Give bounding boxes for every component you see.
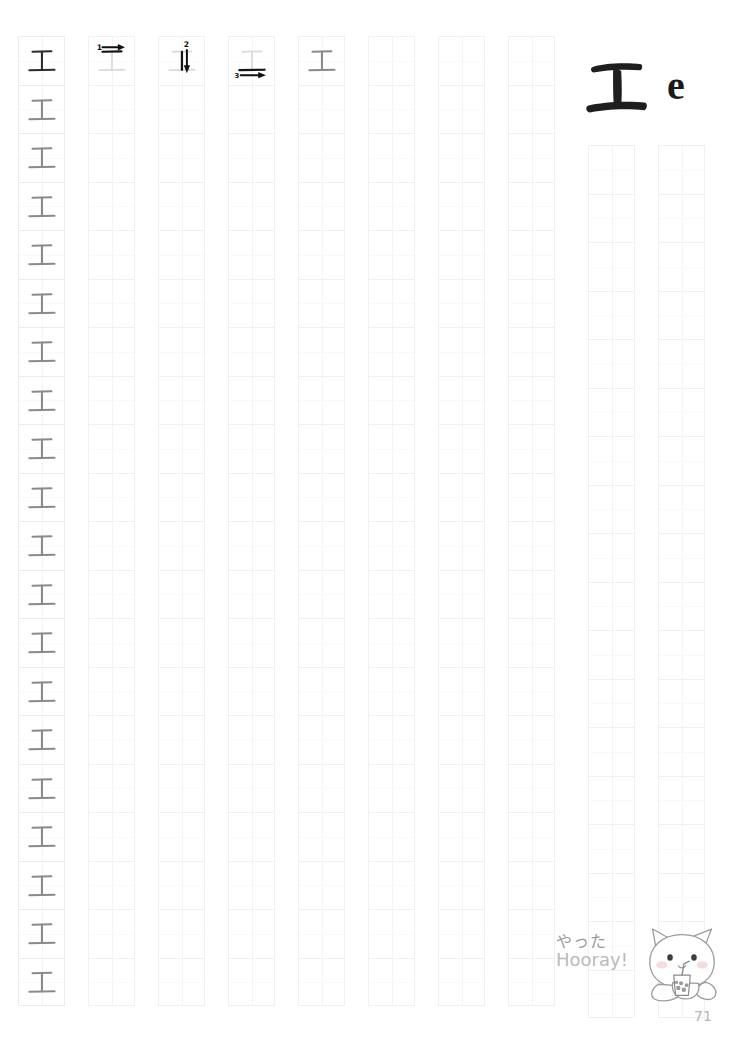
practice-cell[interactable]	[438, 36, 485, 85]
practice-cell[interactable]	[438, 133, 485, 182]
practice-column-4[interactable]: 3	[228, 36, 275, 1006]
practice-cell[interactable]	[18, 376, 65, 425]
practice-cell[interactable]	[368, 958, 415, 1007]
practice-cell[interactable]	[298, 570, 345, 619]
practice-cell[interactable]	[298, 473, 345, 522]
practice-cell[interactable]	[158, 618, 205, 667]
practice-column-1[interactable]	[18, 36, 65, 1006]
practice-cell[interactable]	[88, 133, 135, 182]
practice-cell[interactable]	[658, 339, 705, 388]
practice-cell[interactable]	[228, 715, 275, 764]
practice-cell[interactable]	[298, 327, 345, 376]
practice-cell[interactable]	[228, 958, 275, 1007]
practice-cell[interactable]	[228, 279, 275, 328]
practice-cell[interactable]	[228, 85, 275, 134]
practice-cell[interactable]	[368, 812, 415, 861]
practice-cell[interactable]	[88, 764, 135, 813]
practice-cell[interactable]	[438, 327, 485, 376]
practice-cell[interactable]	[588, 145, 635, 194]
practice-column-10[interactable]	[658, 145, 705, 1018]
practice-cell[interactable]	[18, 230, 65, 279]
practice-cell[interactable]	[508, 667, 555, 716]
practice-cell[interactable]	[508, 327, 555, 376]
practice-cell[interactable]	[658, 388, 705, 437]
practice-cell[interactable]	[228, 667, 275, 716]
practice-cell[interactable]	[658, 824, 705, 873]
practice-cell[interactable]	[158, 473, 205, 522]
practice-cell[interactable]: 3	[228, 36, 275, 85]
practice-cell[interactable]	[658, 194, 705, 243]
practice-cell[interactable]	[658, 436, 705, 485]
practice-cell[interactable]	[438, 618, 485, 667]
practice-cell[interactable]	[228, 376, 275, 425]
practice-cell[interactable]	[368, 521, 415, 570]
practice-column-5[interactable]	[298, 36, 345, 1006]
practice-cell[interactable]	[88, 521, 135, 570]
practice-cell[interactable]	[18, 182, 65, 231]
practice-cell[interactable]	[158, 812, 205, 861]
practice-cell[interactable]	[18, 958, 65, 1007]
practice-cell[interactable]	[18, 570, 65, 619]
practice-cell[interactable]	[18, 715, 65, 764]
practice-cell[interactable]	[158, 958, 205, 1007]
practice-cell[interactable]	[88, 715, 135, 764]
practice-cell[interactable]	[438, 230, 485, 279]
practice-cell[interactable]	[508, 279, 555, 328]
practice-cell[interactable]: 1	[88, 36, 135, 85]
practice-cell[interactable]	[588, 727, 635, 776]
practice-cell[interactable]	[298, 521, 345, 570]
practice-cell[interactable]	[658, 776, 705, 825]
practice-cell[interactable]	[18, 812, 65, 861]
practice-cell[interactable]	[658, 873, 705, 922]
practice-cell[interactable]	[18, 764, 65, 813]
practice-cell[interactable]	[88, 909, 135, 958]
practice-cell[interactable]	[158, 667, 205, 716]
practice-cell[interactable]	[368, 715, 415, 764]
practice-cell[interactable]	[298, 424, 345, 473]
practice-cell[interactable]	[298, 85, 345, 134]
practice-cell[interactable]	[88, 812, 135, 861]
practice-cell[interactable]	[158, 909, 205, 958]
practice-cell[interactable]	[88, 861, 135, 910]
practice-cell[interactable]	[368, 909, 415, 958]
practice-cell[interactable]	[298, 133, 345, 182]
practice-cell[interactable]	[158, 279, 205, 328]
practice-cell[interactable]	[88, 182, 135, 231]
practice-cell[interactable]	[228, 812, 275, 861]
practice-cell[interactable]	[18, 618, 65, 667]
practice-cell[interactable]	[18, 36, 65, 85]
practice-cell[interactable]	[508, 182, 555, 231]
practice-cell[interactable]	[298, 861, 345, 910]
practice-cell[interactable]	[158, 521, 205, 570]
practice-cell[interactable]	[298, 618, 345, 667]
practice-cell[interactable]	[298, 36, 345, 85]
practice-cell[interactable]	[298, 376, 345, 425]
practice-cell[interactable]	[508, 715, 555, 764]
practice-cell[interactable]	[508, 812, 555, 861]
practice-cell[interactable]	[88, 230, 135, 279]
practice-cell[interactable]	[18, 861, 65, 910]
practice-cell[interactable]	[228, 327, 275, 376]
practice-cell[interactable]	[368, 182, 415, 231]
practice-cell[interactable]	[438, 715, 485, 764]
practice-cell[interactable]	[508, 521, 555, 570]
practice-cell[interactable]	[368, 861, 415, 910]
practice-cell[interactable]	[18, 521, 65, 570]
practice-cell[interactable]	[158, 182, 205, 231]
practice-cell[interactable]	[658, 582, 705, 631]
practice-column-7[interactable]	[438, 36, 485, 1006]
practice-cell[interactable]	[588, 533, 635, 582]
practice-cell[interactable]	[658, 145, 705, 194]
practice-cell[interactable]	[158, 327, 205, 376]
practice-cell[interactable]	[588, 485, 635, 534]
practice-cell[interactable]	[298, 909, 345, 958]
practice-cell[interactable]	[438, 570, 485, 619]
practice-cell[interactable]	[298, 667, 345, 716]
practice-cell[interactable]	[18, 133, 65, 182]
practice-cell[interactable]	[368, 133, 415, 182]
practice-cell[interactable]	[88, 618, 135, 667]
practice-cell[interactable]	[658, 242, 705, 291]
practice-cell[interactable]	[228, 570, 275, 619]
practice-cell[interactable]	[508, 230, 555, 279]
practice-cell[interactable]	[368, 85, 415, 134]
